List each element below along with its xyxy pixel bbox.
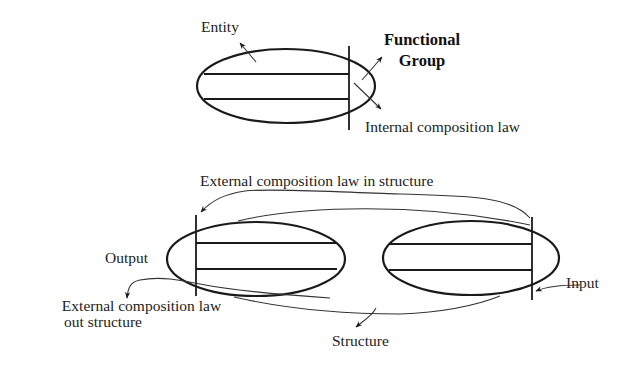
output-entity-ellipse — [167, 222, 345, 296]
structure-envelope-bottom — [234, 296, 500, 314]
internal-law-label: Internal composition law — [365, 119, 520, 135]
external-law-in-label: External composition law in structure — [200, 173, 433, 189]
external-law-in-arrow — [201, 190, 530, 218]
functional-group-label-line1: Functional — [376, 30, 468, 49]
output-label: Output — [105, 250, 148, 266]
structure-label: Structure — [332, 333, 389, 349]
internal-law-pointer-arrow — [354, 83, 381, 109]
functional-group-label-line2: Group — [376, 51, 468, 70]
external-law-out-label-line1: External composition law — [34, 298, 249, 314]
external-law-out-label-line2: out structure — [34, 314, 172, 330]
entity-group-top — [197, 43, 382, 130]
entity-label: Entity — [201, 19, 239, 35]
structure-pointer-arrow — [356, 308, 376, 327]
input-label: Input — [566, 275, 599, 291]
